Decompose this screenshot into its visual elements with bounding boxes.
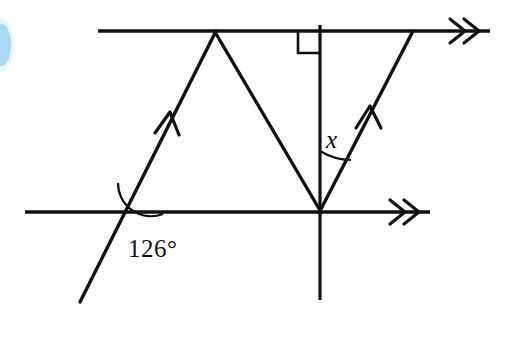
angle-label-x: x [326, 127, 337, 152]
angle-label-126: 126° [128, 236, 178, 261]
right-angle-square [298, 32, 320, 53]
diagram-canvas: 126° x [0, 0, 508, 341]
geometry-figure [0, 0, 508, 341]
blue-page-marker-glow [0, 18, 14, 72]
right-transversal-ray [320, 31, 413, 211]
apex-to-vertex-segment [215, 32, 321, 212]
